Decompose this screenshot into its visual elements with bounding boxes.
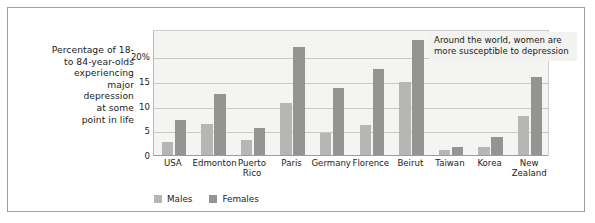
bar-males — [518, 116, 530, 156]
bar-females — [373, 69, 385, 156]
x-axis-label-line: Zealand — [509, 168, 549, 178]
x-axis-label: Korea — [470, 158, 510, 168]
bar-group — [320, 31, 345, 156]
caption-line: depression — [20, 90, 134, 102]
caption-line: major — [20, 79, 134, 91]
x-axis-label: Germany — [311, 158, 351, 168]
bar-females — [531, 77, 543, 156]
x-axis-label-line: Germany — [311, 158, 351, 168]
bar-group — [162, 31, 187, 156]
x-axis-label-line: Beirut — [391, 158, 431, 168]
x-axis-label-line: Rico — [232, 168, 272, 178]
x-axis-label-line: Korea — [470, 158, 510, 168]
bar-group — [360, 31, 385, 156]
chart-annotation: Around the world, women are more suscept… — [429, 32, 577, 61]
legend-swatch-icon — [209, 195, 217, 203]
x-axis-baseline — [154, 155, 548, 156]
x-axis-label: Florence — [351, 158, 391, 168]
x-axis-label: Paris — [272, 158, 312, 168]
x-axis-label-line: Paris — [272, 158, 312, 168]
bar-females — [491, 137, 503, 156]
bar-females — [293, 47, 305, 156]
x-axis-label-line: Puerto — [232, 158, 272, 168]
bar-males — [360, 125, 372, 156]
bar-females — [412, 40, 424, 156]
chart-axis-caption: Percentage of 18-to 84-year-oldsexperien… — [20, 44, 134, 125]
caption-line: experiencing — [20, 67, 134, 79]
legend-swatch-icon — [154, 195, 162, 203]
bar-females — [214, 94, 226, 156]
bar-males — [280, 103, 292, 156]
x-axis-label-line: USA — [153, 158, 193, 168]
caption-line: at some — [20, 102, 134, 114]
x-axis-label: USA — [153, 158, 193, 168]
bar-females — [333, 88, 345, 156]
bar-group — [241, 31, 266, 156]
bar-males — [399, 82, 411, 156]
bar-group — [201, 31, 226, 156]
x-axis-label: PuertoRico — [232, 158, 272, 179]
x-axis-label-line: Edmonton — [193, 158, 233, 168]
caption-line: Percentage of 18- — [20, 44, 134, 56]
bar-group — [280, 31, 305, 156]
bar-males — [162, 142, 174, 156]
x-axis-label: Edmonton — [193, 158, 233, 168]
y-axis-tick-label: 0 — [126, 151, 150, 161]
chart-figure-frame: Percentage of 18-to 84-year-oldsexperien… — [7, 7, 585, 212]
bar-males — [320, 133, 332, 156]
legend-item[interactable]: Males — [154, 194, 192, 204]
x-axis-label: Taiwan — [430, 158, 470, 168]
bar-males — [241, 140, 253, 156]
y-axis-tick-label: 5 — [126, 126, 150, 136]
x-axis-category-labels: USAEdmontonPuertoRicoParisGermanyFlorenc… — [153, 158, 549, 188]
bar-group — [399, 31, 424, 156]
legend-label: Females — [222, 194, 258, 204]
x-axis-label-line: New — [509, 158, 549, 168]
caption-line: point in life — [20, 114, 134, 126]
chart-legend: MalesFemales — [154, 194, 259, 204]
x-axis-label-line: Florence — [351, 158, 391, 168]
bar-females — [254, 128, 266, 156]
caption-line: to 84-year-olds — [20, 56, 134, 68]
legend-label: Males — [167, 194, 192, 204]
legend-item[interactable]: Females — [209, 194, 258, 204]
x-axis-label-line: Taiwan — [430, 158, 470, 168]
bar-males — [201, 124, 213, 156]
bar-females — [175, 120, 187, 156]
x-axis-label: NewZealand — [509, 158, 549, 179]
x-axis-label: Beirut — [391, 158, 431, 168]
